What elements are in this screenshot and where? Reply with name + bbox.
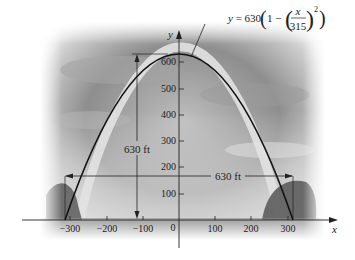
equation-paren: (: [260, 7, 267, 30]
arch-parabola-figure: x y −300 −200 −100 0 100 200 300 100 200…: [0, 0, 355, 260]
x-tick-label: −200: [97, 223, 118, 234]
origin-label: 0: [171, 222, 176, 233]
y-tick-label: 400: [161, 109, 176, 120]
x-tick-label: −300: [60, 223, 81, 234]
x-tick-label: 300: [281, 223, 296, 234]
x-tick-label: −100: [133, 223, 154, 234]
y-tick-label: 500: [161, 83, 176, 94]
equation-lhs: y = 630: [227, 12, 262, 24]
x-tick-label: 200: [244, 223, 259, 234]
equation-one-minus: 1 −: [267, 12, 281, 24]
equation-denominator: 315: [290, 20, 307, 32]
y-tick-label: 100: [161, 188, 176, 199]
y-tick-label: 300: [161, 135, 176, 146]
equation-paren: ): [306, 6, 314, 32]
y-axis-label: y: [167, 28, 173, 40]
equation-paren: ): [319, 7, 326, 30]
y-tick-label: 200: [161, 161, 176, 172]
width-label: 630 ft: [215, 170, 241, 182]
equation-numerator: x: [295, 5, 301, 17]
equation-exponent: 2: [314, 5, 318, 14]
x-tick-label: 100: [208, 223, 223, 234]
height-label: 630 ft: [124, 143, 150, 155]
x-axis-label: x: [331, 223, 337, 235]
